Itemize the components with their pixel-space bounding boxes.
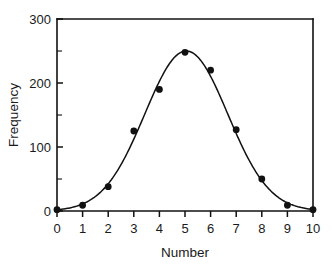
data-point bbox=[258, 176, 265, 183]
frequency-distribution-chart: 0 100 200 300 0 1 2 3 4 5 6 bbox=[0, 0, 332, 267]
fitted-curve bbox=[57, 51, 313, 210]
x-tick-label-2: 2 bbox=[105, 221, 112, 236]
x-tick-label-0: 0 bbox=[53, 221, 60, 236]
chart-figure: 0 100 200 300 0 1 2 3 4 5 6 bbox=[0, 0, 332, 267]
data-point bbox=[310, 206, 317, 213]
data-point bbox=[182, 49, 189, 56]
x-tick-label-3: 3 bbox=[130, 221, 137, 236]
x-tick-label-6: 6 bbox=[207, 221, 214, 236]
y-axis-title: Frequency bbox=[6, 83, 21, 147]
y-tick-label-100: 100 bbox=[29, 140, 51, 155]
x-tick-label-9: 9 bbox=[284, 221, 291, 236]
data-point bbox=[207, 67, 214, 74]
data-point bbox=[79, 202, 86, 209]
data-point-group bbox=[54, 49, 317, 213]
y-axis-tick-labels: 0 100 200 300 bbox=[29, 12, 51, 219]
y-tick-label-200: 200 bbox=[29, 76, 51, 91]
x-axis-ticks bbox=[57, 211, 313, 217]
x-tick-label-7: 7 bbox=[233, 221, 240, 236]
x-tick-label-4: 4 bbox=[156, 221, 163, 236]
x-tick-label-1: 1 bbox=[79, 221, 86, 236]
data-point bbox=[130, 128, 137, 135]
x-tick-label-5: 5 bbox=[181, 221, 188, 236]
data-point bbox=[284, 202, 291, 209]
x-tick-label-10: 10 bbox=[306, 221, 320, 236]
data-point bbox=[105, 183, 112, 190]
x-axis-title: Number bbox=[161, 245, 210, 260]
data-point bbox=[54, 206, 61, 213]
y-axis-ticks bbox=[57, 19, 63, 211]
data-point bbox=[233, 126, 240, 133]
axis-frame bbox=[57, 19, 313, 211]
y-tick-label-300: 300 bbox=[29, 12, 51, 27]
x-tick-label-8: 8 bbox=[258, 221, 265, 236]
y-tick-label-0: 0 bbox=[44, 204, 51, 219]
data-point bbox=[156, 86, 163, 93]
x-axis-tick-labels: 0 1 2 3 4 5 6 7 8 9 10 bbox=[53, 221, 320, 236]
